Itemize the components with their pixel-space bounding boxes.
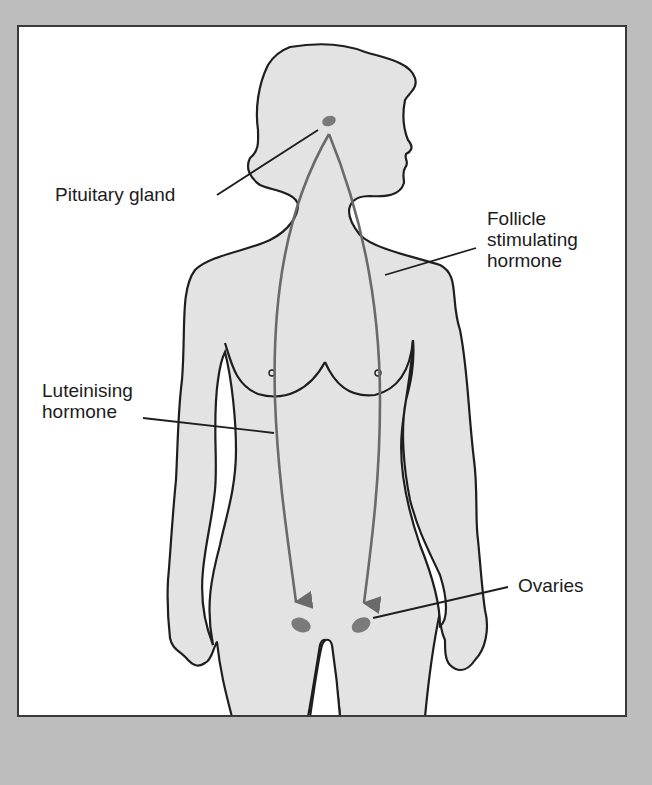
pituitary-gland-label: Pituitary gland — [55, 184, 175, 205]
lh-label: Luteinising hormone — [42, 380, 133, 422]
fsh-label: Follicle stimulating hormone — [487, 208, 578, 271]
ovaries-label: Ovaries — [518, 575, 583, 596]
